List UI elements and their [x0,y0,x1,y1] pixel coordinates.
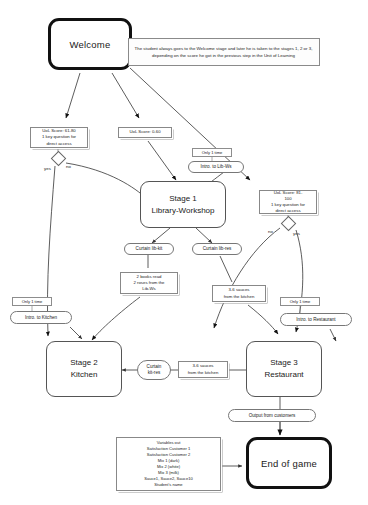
node-stage-3-line1: Stage 3 [270,357,298,369]
node-stage-3-line2: Restaurant [264,369,303,381]
node-stage-2[interactable]: Stage 2 Kitchen [46,341,122,397]
event-curtain-lib-kit-label: Curtain lib-kit [136,246,163,252]
tag-only-1-time-kitchen: Only 1 time [12,297,52,306]
node-welcome[interactable]: Welcome [48,18,132,70]
note-books-roses: 2 books read 2 roses from the Lib-Ws [120,272,178,294]
note-sauces-middle: 3-6 sauces from the kitchen [178,361,228,378]
tag-only-1-time-restaurant: Only 1 time [280,297,320,306]
score-61-80-line3: direct access [46,141,71,147]
node-stage-2-line2: Kitchen [71,369,98,381]
event-curtain-lib-kit[interactable]: Curtain lib-kit [124,243,174,255]
event-intro-kitchen-label: Intro. to Kitchen [25,315,57,321]
decision-diamond-right [281,216,297,232]
event-curtain-kit-res-line2: kit-res [148,370,161,376]
node-end-of-game-label: End of game [261,458,317,469]
event-output-from-customers-label: Output from customers [249,413,296,419]
node-stage-3[interactable]: Stage 3 Restaurant [246,341,322,397]
tag-only-1-time-restaurant-label: Only 1 time [290,299,311,304]
event-intro-restaurant-label: Intro. to Restaurant [296,317,335,323]
score-0-60-line1: UoL Score: 0-60 [129,129,160,135]
node-stage-1-line2: Library-Workshop [152,205,215,217]
note-sauces-right: 3-6 sauces from the kitchen [212,285,266,302]
edge-label-no-left: no [66,164,71,169]
note-welcome-explanation: The student always goes to the Welcome s… [128,38,320,66]
node-stage-1-line1: Stage 1 [169,193,197,205]
note-score-61-80: UoL Score: 61-80 1 key question for dire… [30,127,88,148]
score-81-100-line4: direct access [275,208,300,214]
event-intro-libws-label: Intro. to Lib-Ws [200,164,231,170]
diagram-canvas: Welcome The student always goes to the W… [0,0,368,505]
tag-only-1-time-kitchen-label: Only 1 time [22,299,43,304]
node-end-of-game[interactable]: End of game [246,437,332,489]
event-curtain-kit-res[interactable]: Curtain kit-res [137,360,171,380]
event-intro-libws[interactable]: Intro. to Lib-Ws [188,161,244,173]
note-score-81-100: UoL Score: 81- 100 1 key question for di… [259,190,317,214]
node-stage-2-line1: Stage 2 [70,357,98,369]
tag-only-1-time-libws-label: Only 1 time [202,150,223,155]
edge-label-yes-left: yes [44,166,51,171]
note-books-line3: Lib-Ws [142,286,155,292]
decision-diamond-left [51,151,67,167]
note-variables-out-line-6: Student's name [154,482,182,488]
node-stage-1[interactable]: Stage 1 Library-Workshop [140,181,226,228]
node-welcome-label: Welcome [70,39,111,50]
tag-only-1-time-libws: Only 1 time [192,148,232,157]
event-intro-kitchen[interactable]: Intro. to Kitchen [10,311,72,324]
note-welcome-text: The student always goes to the Welcome s… [133,45,314,59]
edge-label-yes-right: yes [293,231,300,236]
event-intro-restaurant[interactable]: Intro. to Restaurant [280,313,352,326]
event-curtain-lib-res[interactable]: Curtain lib-res [192,243,242,255]
note-sauces-right-line2: from the kitchen [224,294,255,300]
note-sauces-middle-line2: from the kitchen [188,370,219,376]
note-score-0-60: UoL Score: 0-60 [118,127,172,138]
connector-layer [0,0,368,505]
event-curtain-lib-res-label: Curtain lib-res [203,246,232,252]
edge-label-no-right: no [268,229,273,234]
note-variables-out: Variables out Satisfaction Customer 1 Sa… [116,437,221,491]
event-output-from-customers[interactable]: Output from customers [228,409,316,422]
